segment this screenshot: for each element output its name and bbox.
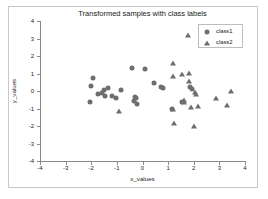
- data-point-class2: [170, 73, 176, 78]
- legend-item-class2[interactable]: class2: [199, 37, 244, 48]
- x-axis-label: x_values: [40, 175, 245, 182]
- data-point-class2: [188, 104, 194, 109]
- x-tick-label: 1: [166, 165, 169, 171]
- data-point-class1: [161, 85, 166, 90]
- legend-circle-marker-icon: [205, 29, 210, 34]
- y-tick-mark: [37, 74, 40, 75]
- x-tick-label: 0: [141, 165, 144, 171]
- y-tick-label: -1: [29, 106, 34, 112]
- data-point-class1: [143, 66, 148, 71]
- data-point-class2: [116, 108, 122, 113]
- data-point-class1: [90, 76, 95, 81]
- y-tick-label: -2: [29, 123, 34, 129]
- data-point-class1: [105, 85, 110, 90]
- y-tick-label: -3: [29, 141, 34, 147]
- y-axis-label: y_values: [10, 79, 17, 103]
- data-point-class2: [191, 123, 197, 128]
- y-tick-label: 3: [31, 36, 34, 42]
- data-point-class1: [89, 83, 94, 88]
- y-tick-mark: [37, 39, 40, 40]
- x-tick-label: 4: [243, 165, 246, 171]
- data-point-class2: [224, 103, 230, 108]
- data-point-class1: [130, 65, 135, 70]
- data-point-class1: [113, 96, 118, 101]
- y-tick-mark: [37, 126, 40, 127]
- legend-item-class1[interactable]: class1: [199, 26, 244, 37]
- legend: class1 class2: [198, 24, 243, 48]
- data-point-class1: [118, 88, 123, 93]
- x-tick-label: -4: [37, 165, 42, 171]
- y-tick-mark: [37, 109, 40, 110]
- y-tick-mark: [37, 21, 40, 22]
- data-point-class2: [181, 99, 187, 104]
- data-point-class1: [87, 100, 92, 105]
- data-point-class2: [179, 71, 185, 76]
- x-tick-label: -1: [114, 165, 119, 171]
- y-tick-label: -4: [29, 158, 34, 164]
- data-point-class2: [186, 79, 192, 84]
- data-point-class2: [186, 70, 192, 75]
- data-point-class2: [193, 91, 199, 96]
- data-point-class2: [170, 106, 176, 111]
- data-point-class2: [213, 95, 219, 100]
- y-tick-mark: [37, 56, 40, 57]
- x-tick-label: -2: [89, 165, 94, 171]
- legend-label-class2: class2: [216, 39, 232, 45]
- legend-triangle-marker-icon: [204, 40, 210, 45]
- y-tick-mark: [37, 161, 40, 162]
- data-point-class2: [171, 120, 177, 125]
- y-tick-label: 1: [31, 71, 34, 77]
- y-tick-label: 2: [31, 53, 34, 59]
- y-tick-label: 4: [31, 18, 34, 24]
- data-point-class1: [134, 96, 139, 101]
- x-tick-label: -3: [63, 165, 68, 171]
- data-point-class1: [135, 101, 140, 106]
- data-point-class1: [152, 81, 157, 86]
- y-tick-mark: [37, 144, 40, 145]
- chart-title: Transformed samples with class labels: [40, 9, 245, 18]
- y-tick-mark: [37, 91, 40, 92]
- x-tick-label: 2: [192, 165, 195, 171]
- data-point-class2: [228, 88, 234, 93]
- figure-canvas: Transformed samples with class labels -4…: [0, 0, 268, 199]
- y-tick-label: 0: [31, 88, 34, 94]
- legend-label-class1: class1: [216, 28, 232, 34]
- data-point-class1: [103, 94, 108, 99]
- data-point-class2: [185, 33, 191, 38]
- x-tick-label: 3: [218, 165, 221, 171]
- data-point-class2: [195, 103, 201, 108]
- data-point-class2: [170, 60, 176, 65]
